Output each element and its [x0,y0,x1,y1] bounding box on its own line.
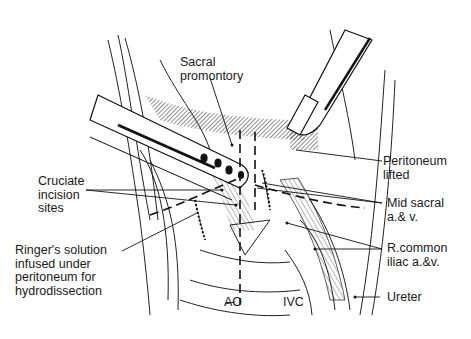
label-ringers-solution: Ringer's solution infused under peritone… [15,244,107,298]
label-ao: AO [224,296,242,310]
label-ivc: IVC [283,296,304,310]
label-ureter: Ureter [387,291,422,305]
label-peritoneum-lifted: Peritoneum lifted [383,155,447,182]
label-sacral-promontory: Sacral promontory [180,56,243,83]
label-mid-sacral: Mid sacral a.& v. [387,197,444,224]
label-r-common-iliac: R.common iliac a.&v. [387,242,447,269]
label-cruciate-incision-sites: Cruciate incision sites [38,175,85,216]
